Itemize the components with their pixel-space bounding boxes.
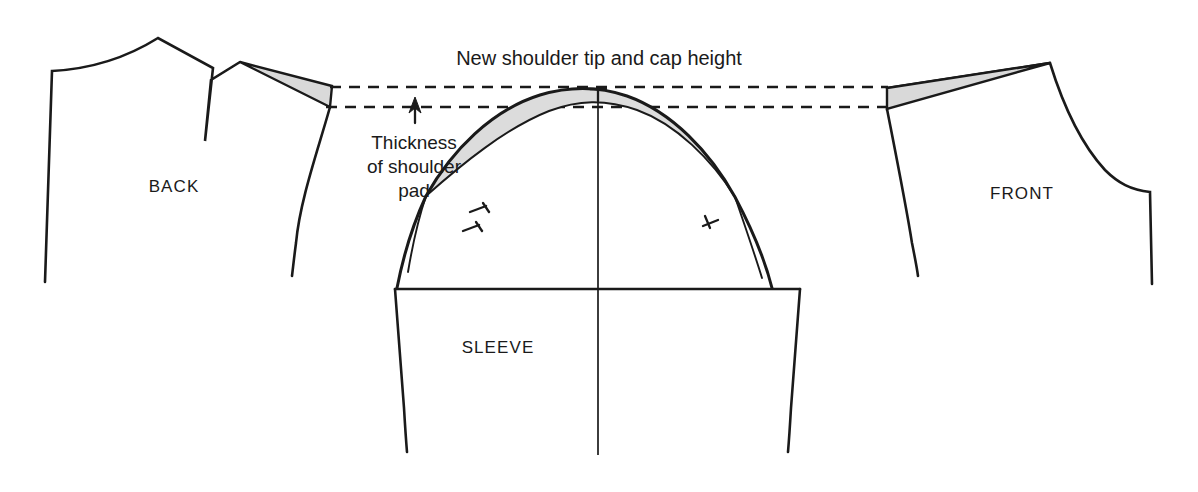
sleeve-piece-label: SLEEVE [462,338,535,357]
pattern-diagram-canvas: New shoulder tip and cap height Thicknes… [0,0,1198,492]
front-shoulder-pad-wedge [887,63,1050,109]
sleeve-cap-line-new [397,88,772,288]
front-side-seam [887,109,918,276]
front-piece-label: FRONT [990,184,1054,203]
front-bodice-piece [887,63,1152,284]
callout-thickness-line1: Thickness [371,132,457,153]
sleeve-left-side-seam [395,289,407,452]
callout-thickness-line2: of shoulder [367,156,462,177]
thickness-arrow [409,97,421,123]
diagram-title: New shoulder tip and cap height [456,47,742,69]
back-shoulder-pad-wedge [240,62,332,107]
back-armhole-seam [292,107,330,276]
callout-thickness-line3: pad [398,180,430,201]
back-bodice-piece [45,38,332,282]
sleeve-cap-front-notch [703,216,718,228]
sleeve-cap-back-notch [463,203,489,231]
sleeve-right-side-seam [788,289,800,452]
back-piece-label: BACK [149,177,200,196]
back-bodice-outline [45,38,240,282]
pattern-diagram-root: New shoulder tip and cap height Thicknes… [0,0,1198,492]
sleeve-cap-line-original [408,102,762,278]
